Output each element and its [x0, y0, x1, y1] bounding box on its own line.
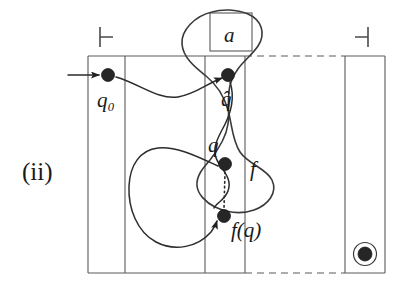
accepting-state-dot	[358, 247, 372, 261]
label-f-of-q: f(q)	[231, 218, 261, 242]
transition-q0-to-qhat	[116, 77, 222, 97]
left-endmarker-icon	[100, 27, 113, 47]
label-q0: q₀	[97, 88, 115, 112]
right-endmarker-icon	[355, 27, 368, 47]
dotted-link-q-to-fq	[224, 172, 225, 208]
label-f: f	[250, 157, 259, 181]
tape-outline	[88, 56, 345, 273]
label-q-hat: q̂	[221, 87, 232, 111]
figure-caption-label: (ii)	[22, 158, 53, 186]
state-dot-q0	[102, 69, 115, 82]
tape-cell-accept	[345, 56, 385, 273]
state-dot-q-hat	[222, 69, 235, 82]
turing-machine-tape-diagram: (ii) q₀ q̂ q f(q) f a	[0, 0, 405, 299]
label-a: a	[224, 23, 235, 47]
state-dot-f-of-q	[218, 210, 231, 223]
accepting-state	[354, 243, 377, 266]
state-dot-q	[219, 158, 232, 171]
diagram-canvas: (ii) q₀ q̂ q f(q) f a	[0, 0, 405, 299]
label-q: q	[208, 133, 219, 157]
